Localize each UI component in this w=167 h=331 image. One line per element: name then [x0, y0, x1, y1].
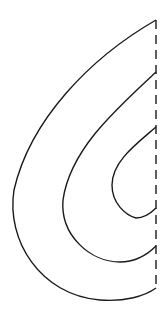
- diagram-canvas: [0, 0, 167, 331]
- middle-curve: [63, 72, 156, 262]
- inner-curve: [112, 127, 156, 218]
- teardrop-diagram: [0, 0, 167, 331]
- outer-curve: [13, 20, 156, 300]
